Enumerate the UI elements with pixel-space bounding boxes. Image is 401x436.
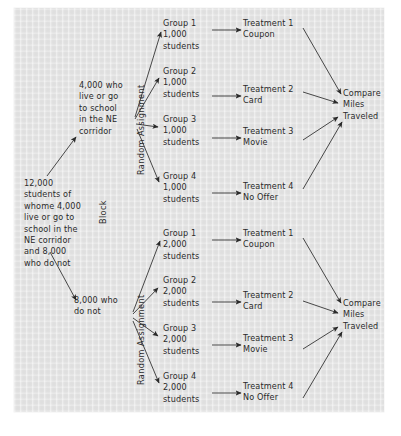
treatment-node-a4: Treatment 4 No Offer <box>243 181 305 204</box>
treatment-node-b1: Treatment 1 Coupon <box>243 228 305 251</box>
random-assignment-label-top: Random Assignment <box>136 84 146 175</box>
group-node-b4: Group 4 2,000 students <box>163 371 209 405</box>
diagram-canvas: 12,000 students of whome 4,000 live or g… <box>0 0 401 436</box>
group-node-a2: Group 2 1,000 students <box>163 66 209 100</box>
treatment-node-a1: Treatment 1 Coupon <box>243 18 305 41</box>
treatment-node-b4: Treatment 4 No Offer <box>243 381 305 404</box>
block-node-not-ne-corridor: 8,000 who do not <box>74 295 130 318</box>
block-node-ne-corridor: 4,000 who live or go to school in the NE… <box>79 80 137 137</box>
block-label: Block <box>98 200 108 224</box>
group-node-b1: Group 1 2,000 students <box>163 228 209 262</box>
outcome-node-top: Compare Miles Traveled <box>343 88 385 122</box>
treatment-node-a3: Treatment 3 Movie <box>243 126 305 149</box>
treatment-node-b3: Treatment 3 Movie <box>243 333 305 356</box>
group-node-a3: Group 3 1,000 students <box>163 114 209 148</box>
group-node-a4: Group 4 1,000 students <box>163 171 209 205</box>
treatment-node-b2: Treatment 2 Card <box>243 290 305 313</box>
source-population-node: 12,000 students of whome 4,000 live or g… <box>24 178 96 269</box>
random-assignment-label-bottom: Random Assignment <box>136 294 146 385</box>
group-node-b3: Group 3 2,000 students <box>163 323 209 357</box>
outcome-node-bottom: Compare Miles Traveled <box>343 298 385 332</box>
group-node-a1: Group 1 1,000 students <box>163 18 209 52</box>
group-node-b2: Group 2 2,000 students <box>163 275 209 309</box>
treatment-node-a2: Treatment 2 Card <box>243 84 305 107</box>
